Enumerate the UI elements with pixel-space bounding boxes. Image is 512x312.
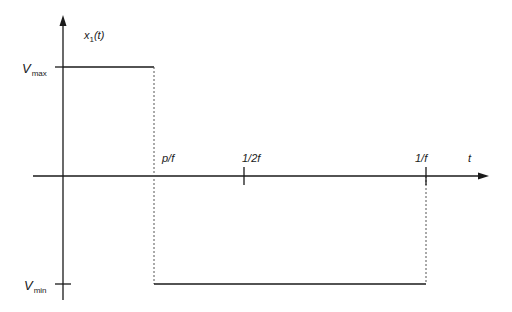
vmin-label: Vmin bbox=[24, 277, 47, 293]
signal-name: x bbox=[84, 29, 90, 41]
signal-subscript: 1 bbox=[90, 35, 94, 44]
tick-label-period-text: 1/f bbox=[415, 152, 427, 164]
vmax-base: V bbox=[22, 61, 31, 76]
vmax-label: Vmax bbox=[22, 60, 47, 76]
x-axis-label: t bbox=[468, 153, 471, 164]
x-axis-arrow-icon bbox=[478, 173, 489, 180]
vmin-base: V bbox=[24, 278, 33, 293]
tick-label-half-period: 1/2f bbox=[242, 153, 260, 164]
tick-label-period: 1/f bbox=[415, 153, 427, 164]
signal-arg: (t) bbox=[94, 29, 104, 41]
vmax-sub: max bbox=[32, 69, 47, 78]
vmin-sub: min bbox=[34, 286, 47, 295]
y-axis-arrow-icon bbox=[60, 15, 67, 26]
tick-label-half-period-text: 1/2f bbox=[242, 152, 260, 164]
signal-label: x1(t) bbox=[84, 30, 104, 41]
tick-label-pf: p/f bbox=[162, 153, 174, 164]
